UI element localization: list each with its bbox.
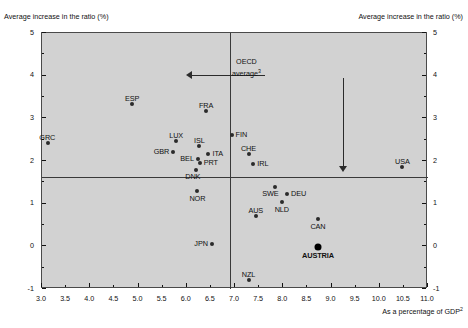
x-tick-label-4.0: 4.0: [84, 294, 94, 303]
x-tick-mark: [138, 283, 139, 287]
x-tick-mark: [379, 283, 380, 287]
y-tick-mark: [422, 160, 426, 161]
y-tick-label-0: 0: [0, 241, 34, 250]
x-tick-mark: [403, 285, 404, 287]
oecd-average-horizontal-line: [42, 177, 428, 178]
y-minor-tick: [424, 96, 426, 97]
y-minor-tick: [42, 53, 44, 54]
data-label-fin: FIN: [236, 130, 247, 139]
y-tick-label-1: 1: [0, 198, 34, 207]
y-tick-mark: [42, 203, 46, 204]
data-point-can: [316, 217, 320, 221]
x-tick-label-3.5: 3.5: [60, 294, 70, 303]
data-label-dnk: DNK: [185, 172, 200, 181]
data-point-irl: [251, 162, 255, 166]
y-minor-tick: [424, 53, 426, 54]
data-label-nor: NOR: [189, 194, 205, 203]
y-minor-tick: [42, 224, 44, 225]
data-label-che: CHE: [241, 144, 256, 153]
y-tick-mark: [422, 75, 426, 76]
data-label-deu: DEU: [291, 189, 306, 198]
data-point-nld: [280, 200, 284, 204]
y-tick-label--1: -1: [0, 284, 34, 293]
data-label-usa: USA: [395, 157, 410, 166]
y-minor-tick: [424, 267, 426, 268]
x-tick-mark: [113, 285, 114, 287]
data-point-jpn: [210, 242, 214, 246]
x-tick-label-4.5: 4.5: [108, 294, 118, 303]
y-tick-mark: [422, 245, 426, 246]
data-label-ita: ITA: [212, 149, 223, 158]
x-tick-mark: [210, 285, 211, 287]
x-axis-title-footnote: 2: [460, 306, 463, 312]
data-label-fra: FRA: [199, 101, 213, 110]
y-minor-tick: [424, 224, 426, 225]
y-tick-label-2: 2: [433, 156, 437, 165]
data-label-austria: AUSTRIA: [302, 251, 334, 260]
x-tick-label-7.5: 7.5: [253, 294, 263, 303]
y-minor-tick: [42, 96, 44, 97]
y-tick-label-1: 1: [433, 198, 437, 207]
y-axis-title-left: Average increase in the ratio (%): [4, 12, 109, 21]
y-tick-mark: [42, 245, 46, 246]
x-tick-mark: [186, 283, 187, 287]
y-tick-mark: [42, 117, 46, 118]
data-point-fin: [230, 133, 234, 137]
data-label-lux: LUX: [169, 131, 183, 140]
x-axis-title-text: As a percentage of GDP: [382, 307, 460, 316]
annotation-line-2: average: [232, 69, 258, 78]
y-tick-label-3: 3: [0, 113, 34, 122]
y-tick-label-2: 2: [0, 156, 34, 165]
data-label-irl: IRL: [257, 159, 268, 168]
x-tick-label-8.5: 8.5: [301, 294, 311, 303]
x-tick-mark: [282, 283, 283, 287]
data-point-deu: [285, 192, 289, 196]
oecd-vertical-arrow-head: [339, 166, 347, 172]
y-tick-label-0: 0: [433, 241, 437, 250]
y-tick-mark: [422, 288, 426, 289]
x-tick-mark: [65, 285, 66, 287]
oecd-vertical-arrow-line: [343, 78, 344, 168]
y-minor-tick: [42, 267, 44, 268]
y-tick-label-3: 3: [433, 113, 437, 122]
data-label-isl: ISL: [194, 136, 205, 145]
x-tick-label-8.0: 8.0: [277, 294, 287, 303]
data-label-nld: NLD: [275, 205, 289, 214]
y-minor-tick: [424, 139, 426, 140]
y-tick-label-5: 5: [433, 28, 437, 37]
chart-figure: Average increase in the ratio (%) Averag…: [0, 0, 468, 328]
annotation-line-1: OECD: [236, 57, 257, 66]
x-axis-title: As a percentage of GDP2: [382, 306, 463, 316]
data-point-ita: [206, 152, 210, 156]
x-tick-mark: [427, 283, 428, 287]
annotation-footnote: 3: [258, 68, 261, 74]
data-label-nzl: NZL: [242, 270, 256, 279]
x-tick-mark: [258, 285, 259, 287]
data-point-austria: [314, 244, 321, 251]
y-tick-mark: [422, 32, 426, 33]
x-tick-label-5.5: 5.5: [157, 294, 167, 303]
data-label-jpn: JPN: [194, 239, 208, 248]
y-tick-label-4: 4: [433, 70, 437, 79]
y-tick-label--1: -1: [433, 284, 439, 293]
x-tick-label-9.5: 9.5: [350, 294, 360, 303]
y-minor-tick: [42, 181, 44, 182]
data-label-aus: AUS: [248, 206, 263, 215]
data-label-swe: SWE: [262, 189, 278, 198]
y-tick-mark: [422, 203, 426, 204]
x-tick-label-11.0: 11.0: [420, 294, 433, 303]
data-label-grc: GRC: [39, 133, 55, 142]
x-tick-label-10.0: 10.0: [372, 294, 386, 303]
data-label-prt: PRT: [204, 158, 218, 167]
x-tick-label-10.5: 10.5: [396, 294, 410, 303]
data-point-prt: [198, 161, 202, 165]
x-tick-label-5.0: 5.0: [133, 294, 143, 303]
data-label-bel: BEL: [180, 154, 194, 163]
data-label-gbr: GBR: [154, 147, 170, 156]
x-tick-mark: [331, 283, 332, 287]
x-tick-mark: [162, 285, 163, 287]
x-tick-mark: [355, 285, 356, 287]
x-tick-mark: [41, 283, 42, 287]
x-tick-mark: [89, 283, 90, 287]
y-minor-tick: [424, 181, 426, 182]
